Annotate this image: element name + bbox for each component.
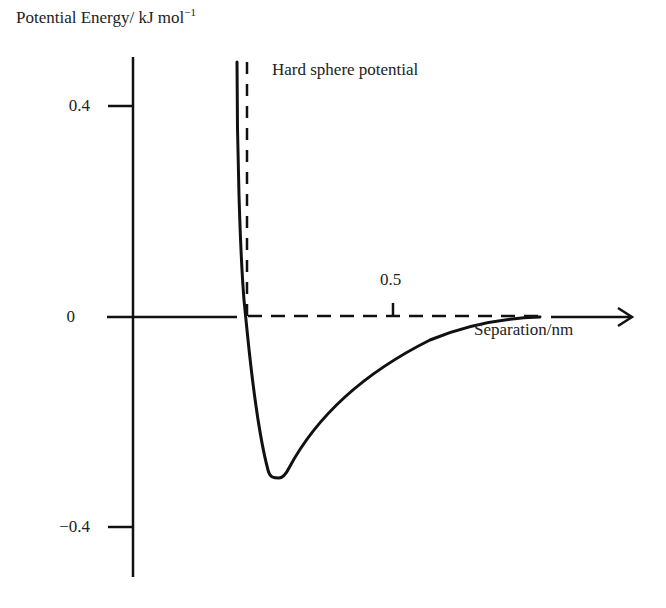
y-axis-label: Potential Energy/ kJ mol−1 (16, 6, 196, 28)
y-tick-label-0.4: 0.4 (30, 96, 90, 116)
potential-energy-chart: Potential Energy/ kJ mol−1 0.4 0 −0.4 Ha… (0, 0, 666, 608)
y-tick-label-0: 0 (15, 307, 75, 327)
x-axis-label: Separation/nm (474, 320, 573, 340)
x-tick-label-0.5: 0.5 (380, 270, 401, 290)
hard-sphere-annotation: Hard sphere potential (272, 60, 418, 80)
chart-canvas (0, 0, 666, 608)
y-tick-label-neg0.4: −0.4 (30, 517, 90, 537)
